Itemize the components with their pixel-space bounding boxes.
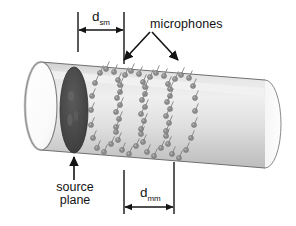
source-plane-disc bbox=[60, 67, 88, 153]
d-sm-symbol: d bbox=[92, 9, 100, 24]
microphones-arrow-left bbox=[124, 32, 150, 60]
source-plane-label-line2: plane bbox=[41, 194, 109, 207]
d-sm-label: dsm bbox=[92, 10, 110, 27]
microphones-label: microphones bbox=[150, 18, 223, 31]
d-mm-symbol: d bbox=[140, 185, 148, 200]
microphones-arrow-right bbox=[152, 32, 178, 60]
source-plane-label: source plane bbox=[41, 181, 109, 207]
d-mm-label: dmm bbox=[140, 186, 160, 203]
d-sm-subscript: sm bbox=[100, 18, 110, 27]
microphones-callout-arrows bbox=[124, 32, 178, 60]
d-mm-subscript: mm bbox=[148, 194, 161, 203]
